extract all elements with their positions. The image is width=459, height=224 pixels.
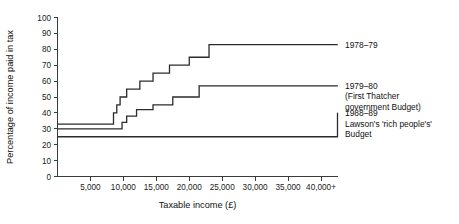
series-line-1978-79 — [58, 45, 338, 125]
chart-canvas: 01020304050607080901005,00010,00015,0002… — [0, 0, 459, 224]
y-tick-label: 50 — [42, 93, 52, 102]
y-tick-label: 90 — [42, 29, 52, 38]
y-tick-label: 20 — [42, 141, 52, 150]
y-tick-label: 30 — [42, 125, 52, 134]
x-tick-label: 25,000 — [210, 183, 235, 192]
x-tick-label: 10,000 — [111, 183, 136, 192]
y-tick-label: 60 — [42, 77, 52, 86]
y-tick-label: 10 — [42, 157, 52, 166]
legend-label-0-line-0: 1978–79 — [345, 40, 378, 50]
y-axis-ticks: 0102030405060708090100 — [37, 14, 57, 182]
legend-label-1-line-0: 1979–80 — [345, 81, 378, 91]
series-line-1988-89 — [58, 113, 338, 137]
series-line-1979-80 — [58, 86, 338, 129]
x-axis-title: Taxable income (£) — [159, 200, 237, 210]
y-tick-label: 40 — [42, 109, 52, 118]
x-tick-label: 20,000 — [177, 183, 202, 192]
y-tick-label: 0 — [46, 173, 51, 182]
x-tick-label: 40,000+ — [306, 183, 336, 192]
y-axis-title: Percentage of income paid in tax — [5, 30, 15, 164]
legend-label-2-line-2: Budget — [345, 129, 372, 139]
legend-label-1-line-1: (First Thatcher — [345, 91, 400, 101]
x-tick-label: 30,000 — [243, 183, 268, 192]
legend-label-2-line-1: Lawson's 'rich people's' — [345, 119, 432, 129]
legend-label-2-line-0: 1988–89 — [345, 108, 378, 118]
y-tick-label: 80 — [42, 45, 52, 54]
tax-rate-step-chart: 01020304050607080901005,00010,00015,0002… — [0, 0, 459, 224]
series-group — [58, 45, 338, 137]
y-tick-label: 100 — [37, 14, 51, 23]
x-axis-ticks: 5,00010,00015,00020,00025,00030,00035,00… — [80, 177, 336, 193]
legend-group: 1978–791979–80(First Thatchergovernment … — [337, 40, 432, 140]
x-tick-label: 5,000 — [80, 183, 101, 192]
y-tick-label: 70 — [42, 61, 52, 70]
x-tick-label: 15,000 — [144, 183, 169, 192]
x-tick-label: 35,000 — [276, 183, 301, 192]
